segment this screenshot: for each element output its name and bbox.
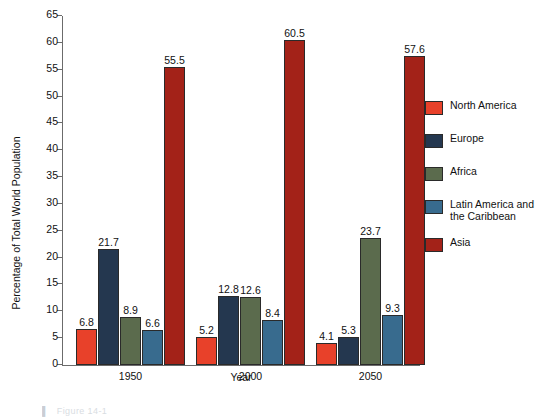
y-axis-tick-label: 65 xyxy=(46,8,58,20)
bar: 4.1 xyxy=(316,343,337,365)
y-axis-tick: 15 xyxy=(62,283,67,284)
bar-value-label: 8.4 xyxy=(265,307,280,319)
legend-label: Asia xyxy=(450,237,470,249)
figure-bar-chart: Percentage of Total World Population 051… xyxy=(0,0,554,417)
y-axis-tick: 60 xyxy=(62,42,67,43)
bar: 57.6 xyxy=(404,56,425,365)
y-axis-title: Percentage of Total World Population xyxy=(8,118,24,328)
legend-label-line: the Caribbean xyxy=(450,211,534,223)
bar-value-label: 60.5 xyxy=(284,27,304,39)
bar: 6.6 xyxy=(142,330,163,365)
y-axis-tick-label: 30 xyxy=(46,196,58,208)
y-axis-tick: 35 xyxy=(62,176,67,177)
y-axis-tick: 25 xyxy=(62,230,67,231)
bar-value-label: 8.9 xyxy=(123,304,138,316)
bar: 5.2 xyxy=(196,337,217,365)
legend-swatch xyxy=(425,101,443,115)
figure-caption: ▌Figure 14-1 xyxy=(42,406,107,417)
bar-value-label: 21.7 xyxy=(98,236,118,248)
bar: 12.8 xyxy=(218,296,239,365)
y-axis-tick-label: 50 xyxy=(46,89,58,101)
legend-swatch xyxy=(425,134,443,148)
y-axis-tick: 0 xyxy=(62,364,67,365)
bar: 21.7 xyxy=(98,249,119,366)
legend-swatch xyxy=(425,167,443,181)
y-axis-tick-label: 45 xyxy=(46,115,58,127)
bar: 23.7 xyxy=(360,238,381,365)
y-axis-tick-label: 40 xyxy=(46,142,58,154)
bar-value-label: 4.1 xyxy=(319,330,334,342)
x-axis-line xyxy=(62,365,420,366)
bar: 8.4 xyxy=(262,320,283,365)
bar-value-label: 23.7 xyxy=(360,225,380,237)
bar-value-label: 5.2 xyxy=(199,324,214,336)
bar-value-label: 6.8 xyxy=(79,316,94,328)
bar: 60.5 xyxy=(284,40,305,365)
plot-area: 05101520253035404550556065 6.821.78.96.6… xyxy=(62,16,420,366)
y-axis-tick: 50 xyxy=(62,96,67,97)
y-axis-tick-label: 55 xyxy=(46,62,58,74)
y-axis-tick-label: 0 xyxy=(52,357,58,369)
y-axis-tick-label: 15 xyxy=(46,276,58,288)
legend-label: Latin America andthe Caribbean xyxy=(450,199,534,222)
y-axis-tick: 65 xyxy=(62,15,67,16)
y-axis-tick-label: 35 xyxy=(46,169,58,181)
caption-marker: ▌ xyxy=(42,406,49,416)
y-axis-tick: 40 xyxy=(62,149,67,150)
y-axis-tick-label: 25 xyxy=(46,223,58,235)
legend-label: Africa xyxy=(450,166,477,178)
legend-swatch xyxy=(425,200,443,214)
y-axis-title-text: Percentage of Total World Population xyxy=(10,137,22,310)
bar-value-label: 12.8 xyxy=(218,283,238,295)
bar: 55.5 xyxy=(164,67,185,365)
bar-value-label: 12.6 xyxy=(240,284,260,296)
y-axis-tick: 5 xyxy=(62,337,67,338)
bar: 9.3 xyxy=(382,315,403,365)
y-axis-tick-label: 60 xyxy=(46,35,58,47)
caption-text: Figure 14-1 xyxy=(57,406,107,416)
bar: 5.3 xyxy=(338,337,359,365)
y-axis-tick: 45 xyxy=(62,122,67,123)
y-axis-tick-label: 10 xyxy=(46,303,58,315)
bar: 6.8 xyxy=(76,329,97,366)
bar-value-label: 55.5 xyxy=(164,54,184,66)
y-axis-tick-label: 5 xyxy=(52,330,58,342)
bar: 8.9 xyxy=(120,317,141,365)
bar: 12.6 xyxy=(240,297,261,365)
legend-swatch xyxy=(425,238,443,252)
bar-value-label: 9.3 xyxy=(385,302,400,314)
legend-label: Europe xyxy=(450,133,484,145)
y-axis-tick: 55 xyxy=(62,69,67,70)
y-axis-tick: 30 xyxy=(62,203,67,204)
legend-label-line: Latin America and xyxy=(450,199,534,211)
bar-value-label: 57.6 xyxy=(404,43,424,55)
legend-label: North America xyxy=(450,100,517,112)
y-axis-tick-label: 20 xyxy=(46,250,58,262)
y-axis-tick: 10 xyxy=(62,310,67,311)
y-axis-tick: 20 xyxy=(62,257,67,258)
bar-value-label: 5.3 xyxy=(341,324,356,336)
bar-value-label: 6.6 xyxy=(145,317,160,329)
x-axis-title: Year xyxy=(62,371,420,383)
